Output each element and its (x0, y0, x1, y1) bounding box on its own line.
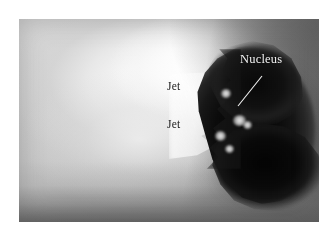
annotation-nucleus-label: Nucleus (240, 53, 282, 66)
page-root: Nucleus Jet Jet (0, 0, 336, 236)
comet-photograph: Nucleus Jet Jet (19, 19, 319, 222)
annotation-jet-upper-label: Jet (167, 81, 180, 93)
annotation-jet-lower-label: Jet (167, 119, 180, 131)
